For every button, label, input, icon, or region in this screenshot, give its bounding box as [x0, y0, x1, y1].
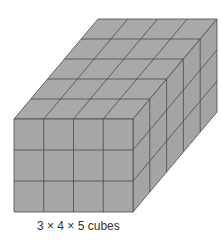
rectangular-prism-of-cubes: [0, 0, 222, 244]
figure-caption: 3 × 4 × 5 cubes: [37, 219, 120, 233]
